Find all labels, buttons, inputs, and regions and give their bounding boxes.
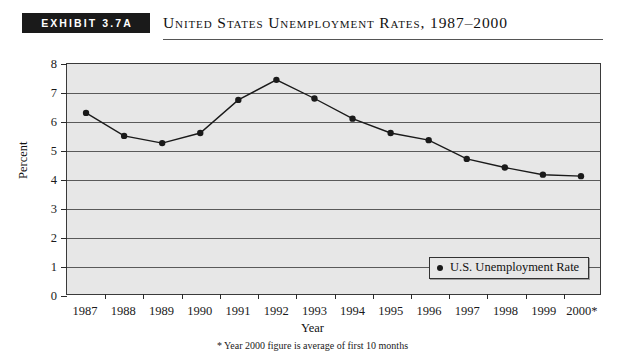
exhibit-badge: EXHIBIT 3.7A bbox=[22, 13, 150, 33]
data-point bbox=[197, 130, 203, 136]
x-axis-tick-label: 1992 bbox=[264, 304, 289, 319]
data-point bbox=[425, 137, 431, 143]
y-axis-tick-label: 7 bbox=[51, 86, 57, 101]
data-point bbox=[273, 77, 279, 83]
x-axis-tick bbox=[564, 294, 565, 299]
y-axis-tick-label: 5 bbox=[51, 144, 57, 159]
y-axis-tick-label: 0 bbox=[51, 289, 57, 304]
plot-area: 012345678 U.S. Unemployment Rate bbox=[66, 63, 601, 295]
x-axis-tick-label: 1991 bbox=[225, 304, 250, 319]
filled-circle-icon bbox=[437, 265, 443, 271]
data-point bbox=[83, 110, 89, 116]
x-axis-tick bbox=[487, 294, 488, 299]
x-axis-tick-label: 1993 bbox=[302, 304, 327, 319]
title-divider bbox=[163, 39, 603, 40]
x-axis-tick bbox=[105, 294, 106, 299]
y-axis-tick-label: 6 bbox=[51, 115, 57, 130]
y-axis-tick-label: 4 bbox=[51, 173, 57, 188]
footnote: * Year 2000 figure is average of first 1… bbox=[0, 340, 625, 351]
x-axis-tick bbox=[182, 294, 183, 299]
x-axis-tick-label: 1996 bbox=[417, 304, 442, 319]
y-axis-tick-label: 8 bbox=[51, 57, 57, 72]
x-axis-tick-label: 1997 bbox=[455, 304, 480, 319]
y-axis-tick-label: 1 bbox=[51, 260, 57, 275]
y-axis-tick-label: 2 bbox=[51, 231, 57, 246]
data-point bbox=[159, 140, 165, 146]
x-axis-title: Year bbox=[0, 321, 625, 336]
x-axis-tick bbox=[143, 294, 144, 299]
x-axis-tick bbox=[526, 294, 527, 299]
data-point bbox=[540, 172, 546, 178]
page-title: United States Unemployment Rates, 1987–2… bbox=[163, 14, 508, 32]
data-point bbox=[464, 156, 470, 162]
x-axis-tick-label: 1990 bbox=[187, 304, 212, 319]
y-axis-title: Percent bbox=[16, 142, 31, 179]
legend-label: U.S. Unemployment Rate bbox=[450, 260, 579, 275]
y-axis-tick bbox=[61, 296, 67, 297]
x-axis-tick bbox=[296, 294, 297, 299]
x-axis-tick-label: 1994 bbox=[340, 304, 365, 319]
data-point bbox=[502, 164, 508, 170]
chart-legend: U.S. Unemployment Rate bbox=[429, 257, 589, 279]
chart-header: EXHIBIT 3.7A United States Unemployment … bbox=[0, 0, 625, 46]
unemployment-markers bbox=[83, 77, 584, 180]
data-point bbox=[121, 133, 127, 139]
x-axis-tick bbox=[220, 294, 221, 299]
x-axis-tick-label: 1989 bbox=[149, 304, 174, 319]
x-axis-tick bbox=[258, 294, 259, 299]
x-axis-tick-label: 1998 bbox=[493, 304, 518, 319]
x-axis-tick-label: 2000* bbox=[566, 304, 597, 319]
x-axis-tick bbox=[449, 294, 450, 299]
data-point bbox=[578, 173, 584, 179]
x-axis-tick-label: 1988 bbox=[111, 304, 136, 319]
x-axis-tick bbox=[335, 294, 336, 299]
x-axis-tick-label: 1995 bbox=[378, 304, 403, 319]
data-point bbox=[349, 115, 355, 121]
x-axis-tick-label: 1987 bbox=[73, 304, 98, 319]
unemployment-line bbox=[86, 80, 581, 176]
data-point bbox=[311, 95, 317, 101]
x-axis-tick bbox=[411, 294, 412, 299]
data-point bbox=[387, 130, 393, 136]
y-axis-tick-label: 3 bbox=[51, 202, 57, 217]
data-point bbox=[235, 97, 241, 103]
x-axis-tick bbox=[373, 294, 374, 299]
x-axis-tick-label: 1999 bbox=[531, 304, 556, 319]
